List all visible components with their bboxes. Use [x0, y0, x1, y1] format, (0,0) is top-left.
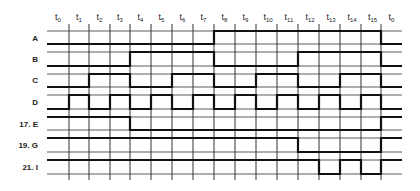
time-label: t14 — [348, 12, 358, 23]
time-label: t2 — [97, 12, 104, 23]
time-label: t12 — [306, 12, 316, 23]
waveform — [47, 31, 402, 44]
signal-label: B — [32, 55, 38, 64]
time-label: t10 — [264, 12, 274, 23]
waveform — [47, 52, 402, 66]
waveforms — [47, 31, 402, 174]
time-label: t8 — [222, 12, 229, 23]
waveform — [47, 138, 402, 152]
grid-lines — [47, 24, 402, 180]
time-label: t0 — [389, 12, 396, 23]
time-label: t3 — [117, 12, 124, 23]
signal-label: C — [32, 76, 38, 85]
time-label: t1 — [76, 12, 83, 23]
waveform — [47, 95, 402, 109]
time-label: t7 — [201, 12, 208, 23]
signal-label: D — [32, 98, 38, 107]
signal-labels: ABCD17. E19. G21. I — [18, 34, 38, 172]
waveform — [47, 117, 402, 130]
waveform — [47, 160, 402, 174]
time-labels: t0t1t2t3t4t5t6t7t8t9t10t11t12t13t14t15t0 — [55, 12, 395, 23]
signal-label: 19. G — [18, 141, 38, 150]
time-label: t6 — [180, 12, 187, 23]
time-label: t15 — [368, 12, 378, 23]
time-label: t11 — [285, 12, 294, 23]
time-label: t4 — [138, 12, 145, 23]
signal-label: A — [32, 34, 38, 43]
time-label: t5 — [159, 12, 166, 23]
waveform — [47, 74, 402, 87]
signal-label: 21. I — [22, 163, 38, 172]
time-label: t0 — [55, 12, 62, 23]
timing-diagram: t0t1t2t3t4t5t6t7t8t9t10t11t12t13t14t15t0… — [0, 0, 420, 191]
signal-label: 17. E — [19, 120, 38, 129]
time-label: t9 — [243, 12, 250, 23]
time-label: t13 — [327, 12, 337, 23]
